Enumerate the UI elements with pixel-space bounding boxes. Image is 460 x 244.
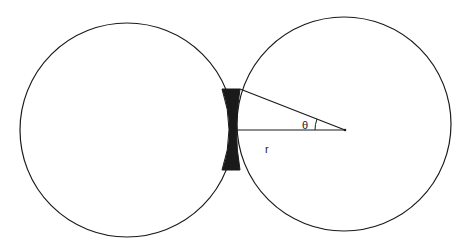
angle-line <box>240 89 345 130</box>
left-sphere <box>20 23 234 237</box>
theta-label: θ <box>302 119 308 131</box>
two-sphere-liquid-bridge-diagram: θ r <box>0 0 460 244</box>
sphere-center-point <box>344 129 347 132</box>
angle-arc <box>315 119 317 130</box>
right-sphere <box>237 17 451 231</box>
radius-label: r <box>265 143 269 155</box>
